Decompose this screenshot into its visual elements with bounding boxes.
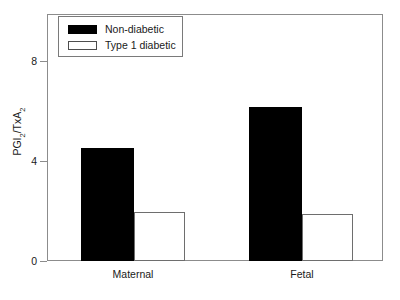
legend-swatch-open-icon xyxy=(68,41,97,50)
y-axis-title-mid: /TxA xyxy=(11,112,23,134)
bar-maternal-type-1-diabetic xyxy=(134,212,185,261)
legend-item-non-diabetic: Non-diabetic xyxy=(68,22,182,37)
y-tick-label-4: 4 xyxy=(13,156,37,166)
x-axis-label-maternal: Maternal xyxy=(83,268,183,280)
legend-label-type-1-diabetic: Type 1 diabetic xyxy=(105,40,176,51)
chart-legend: Non-diabetic Type 1 diabetic xyxy=(58,16,183,57)
chart-figure: PGI2/TxA2 8 4 0 Maternal Fetal Non-diabe… xyxy=(0,0,400,300)
bar-fetal-non-diabetic xyxy=(249,107,302,261)
y-tick-mark-8 xyxy=(40,61,47,62)
y-axis-title: PGI2/TxA2 xyxy=(11,72,26,192)
y-tick-label-0: 0 xyxy=(13,256,37,266)
legend-label-non-diabetic: Non-diabetic xyxy=(105,24,164,35)
x-axis-label-fetal: Fetal xyxy=(252,268,352,280)
y-tick-mark-0 xyxy=(40,261,47,262)
bar-fetal-type-1-diabetic xyxy=(302,214,353,261)
y-tick-label-8: 8 xyxy=(13,56,37,66)
y-axis-title-sub-2: 2 xyxy=(18,108,27,112)
legend-swatch-filled-icon xyxy=(68,25,97,34)
y-axis-title-lead: PGI xyxy=(11,137,23,155)
bar-maternal-non-diabetic xyxy=(81,148,134,261)
y-axis-title-sub-1: 2 xyxy=(18,133,27,137)
y-tick-mark-4 xyxy=(40,161,47,162)
legend-item-type-1-diabetic: Type 1 diabetic xyxy=(68,38,182,53)
